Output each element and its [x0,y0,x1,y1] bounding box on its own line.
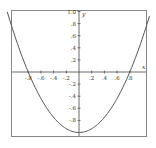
x-tick-label: .6 [114,75,120,81]
y-tick-label: .8 [71,21,77,27]
y-tick-label: -.6 [69,105,77,111]
y-tick-label: -.2 [69,81,76,87]
y-tick-label: -.8 [69,117,77,123]
x-tick-label: .4 [102,75,108,81]
x-tick-label: -.6 [37,75,45,81]
x-tick-label: -.2 [63,75,70,81]
y-tick-label: -.4 [69,93,77,99]
y-tick-label: .2 [71,57,76,63]
y-axis-label: y [81,10,86,18]
x-tick-label: -.4 [50,75,58,81]
x-tick-label: .2 [89,75,94,81]
chart: -.8-.6-.4-.2.2.4.6.81.0.8.6.4.2-.2-.4-.6… [0,0,156,148]
y-tick-label: .4 [71,45,77,51]
y-tick-label: 1.0 [67,9,76,15]
y-tick-label: .6 [71,33,77,39]
